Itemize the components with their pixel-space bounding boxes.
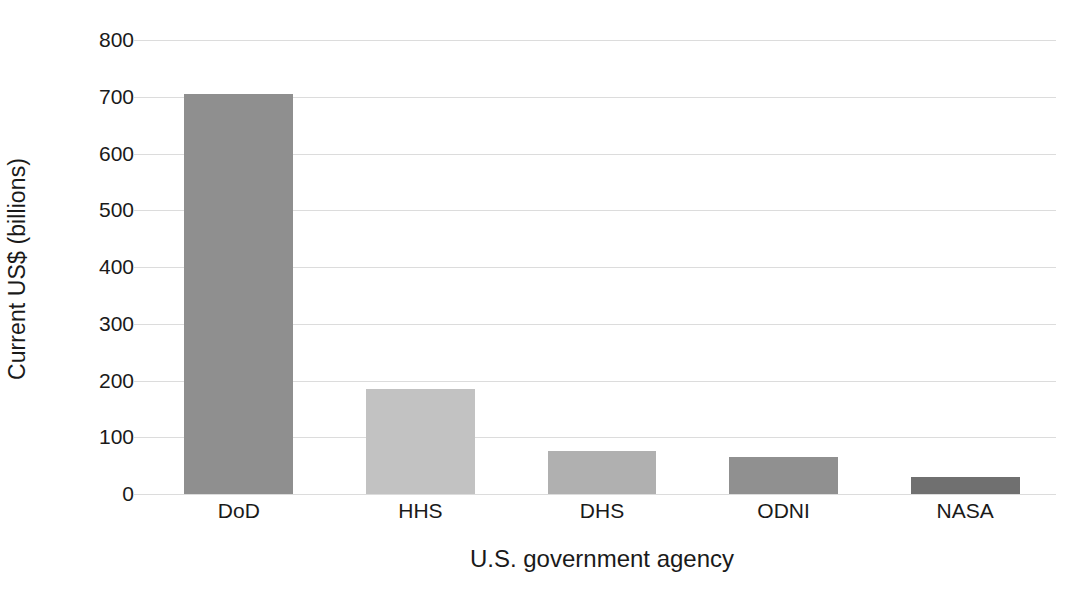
x-axis-tick-label: DHS <box>511 500 693 521</box>
x-axis-tick-label: DoD <box>148 500 330 521</box>
bar-series <box>148 40 1056 494</box>
x-axis-tick-label: HHS <box>330 500 512 521</box>
y-axis-tick-labels: 0100200300400500600700800 <box>62 0 134 611</box>
bar-slot <box>366 40 475 494</box>
x-axis-tick-label: ODNI <box>693 500 875 521</box>
y-axis-tick-label: 400 <box>62 256 134 277</box>
bar-odni <box>729 457 838 494</box>
bar-slot <box>184 40 293 494</box>
x-axis-tick-label: NASA <box>874 500 1056 521</box>
bar-dhs <box>548 451 657 494</box>
y-axis-tick-label: 700 <box>62 86 134 107</box>
bar-slot <box>911 40 1020 494</box>
y-axis-tick-label: 0 <box>62 483 134 504</box>
y-axis-tick-label: 800 <box>62 29 134 50</box>
y-axis-tick-label: 300 <box>62 313 134 334</box>
x-axis-tick-labels: DoDHHSDHSODNINASA <box>148 500 1056 532</box>
y-axis-tick-label: 200 <box>62 370 134 391</box>
gridline <box>134 494 1056 495</box>
y-axis-title: Current US$ (billions) <box>0 34 34 504</box>
x-axis-title: U.S. government agency <box>148 545 1056 573</box>
bar-nasa <box>911 477 1020 494</box>
bar-slot <box>729 40 838 494</box>
y-axis-tick-label: 500 <box>62 199 134 220</box>
bar-dod <box>184 94 293 494</box>
bar-chart: Current US$ (billions) 01002003004005006… <box>0 0 1073 611</box>
y-axis-tick-label: 100 <box>62 426 134 447</box>
y-axis-tick-label: 600 <box>62 143 134 164</box>
bar-slot <box>548 40 657 494</box>
bar-hhs <box>366 389 475 494</box>
